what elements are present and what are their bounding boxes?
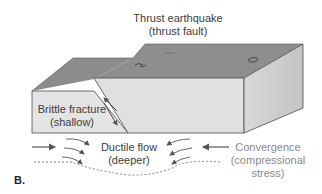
brittle-label-1: Brittle fracture xyxy=(32,103,112,115)
convergence-label-1: Convergence xyxy=(230,141,306,153)
brittle-label-2: (shallow) xyxy=(32,116,112,128)
ductile-label-1: Ductile flow xyxy=(97,141,161,153)
title-line-2: (thrust fault) xyxy=(128,25,228,37)
convergence-label-2: (compressional xyxy=(230,154,306,166)
thrust-fault-diagram: Thrust earthquake (thrust fault) Brittle… xyxy=(0,0,322,194)
title-line-1: Thrust earthquake xyxy=(128,12,228,24)
panel-label: B. xyxy=(14,174,25,186)
convergence-label-3: stress) xyxy=(230,167,306,179)
ductile-label-2: (deeper) xyxy=(97,154,161,166)
